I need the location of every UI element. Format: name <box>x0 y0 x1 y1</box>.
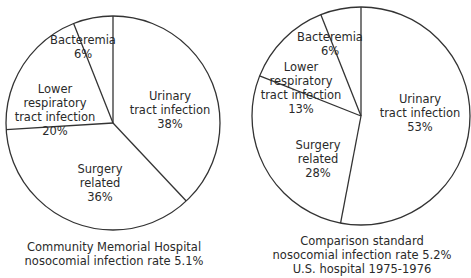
slice-label-bacteremia: Bacteremia 6% <box>297 30 363 58</box>
slice-label-lower-respiratory: Lower respiratory tract infection 13% <box>261 60 342 116</box>
pie-chart-comparison-standard: Urinary tract infection 53% Surgery rela… <box>0 0 471 278</box>
slice-label-surgery: Surgery related 28% <box>295 138 340 180</box>
chart-caption: Comparison standard nosocomial infection… <box>273 234 452 276</box>
slice-label-urinary: Urinary tract infection 53% <box>380 92 461 134</box>
